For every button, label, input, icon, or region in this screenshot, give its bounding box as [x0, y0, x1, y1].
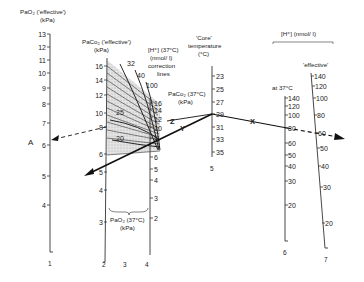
scale-5-core-temperature: 'Core' temperature (°C) 23 25 27 29 31 3…	[188, 34, 224, 172]
scale-7-title: 'effective'	[303, 61, 328, 68]
scale-1-unit: (kPa)	[40, 16, 55, 23]
tick-label: 120	[288, 103, 300, 110]
scale-6-h-ion-37c: at 37°C 140 120 100 80 60 50 40 30 20 6	[272, 84, 300, 256]
arrow-x-icon	[334, 133, 345, 140]
scale-6-title: at 37°C	[272, 84, 293, 91]
tick-label: 7	[42, 120, 46, 127]
tick-label: 11	[39, 57, 46, 64]
tick-label: 16	[154, 100, 162, 107]
tick-label: 20	[325, 220, 333, 227]
scale-5-title-2: temperature	[188, 42, 222, 49]
scale-4-bottom-unit: (kPa)	[120, 224, 135, 231]
label-x: X	[250, 117, 255, 126]
tick-label: 3	[154, 195, 158, 202]
tick-label: 100	[288, 112, 300, 119]
tick-label: 30	[288, 178, 296, 185]
curve-label-32: 32	[127, 60, 135, 67]
scale-3-title: [H⁺] (37°C)	[148, 46, 179, 53]
pao2-37c-brace	[109, 208, 148, 215]
tick-label: 33	[216, 136, 224, 143]
tick-label: 140	[288, 95, 300, 102]
tick-label: 31	[216, 124, 224, 131]
scale-1-number: 1	[48, 260, 52, 267]
tick-label: 120	[315, 83, 327, 90]
arrow-a-icon	[51, 135, 59, 141]
scale-7-h-ion-effective: 'effective' 140 120 100 80 60 50 40 30 2…	[303, 61, 333, 263]
scale-5-title: 'Core'	[196, 34, 212, 41]
tick-label: 14	[95, 77, 103, 84]
scale-3-line4: lines	[157, 70, 170, 77]
tick-label: 4	[154, 177, 158, 184]
tick-label: 2	[154, 215, 158, 222]
tick-label: 50	[320, 145, 328, 152]
scale-1-pao2-effective: PaO₂ ('effective') (kPa) 13 12 11 10 9 8…	[20, 8, 66, 267]
tick-label: 6	[154, 154, 158, 161]
nomogram-diagram: PaO₂ ('effective') (kPa) 13 12 11 10 9 8…	[0, 0, 364, 282]
curve-label-25: 25	[116, 109, 124, 116]
nomogram-svg: PaO₂ ('effective') (kPa) 13 12 11 10 9 8…	[0, 0, 364, 282]
tick-label: 5	[154, 166, 158, 173]
scale-3-line3: correction	[148, 62, 176, 69]
tick-label: 60	[318, 130, 326, 137]
tick-label: 13	[38, 31, 46, 38]
h-ion-group-header: [H⁺] (nmol/ l)	[273, 30, 333, 44]
tick-label: 6	[99, 151, 103, 158]
tick-label: 3	[99, 219, 103, 226]
scale-7-number: 7	[324, 256, 328, 263]
line-x-dashed	[287, 128, 338, 137]
scale-2-unit: (kPa)	[94, 46, 109, 53]
tick-label: 27	[216, 99, 224, 106]
scale-3-unit: (nmol/ l)	[150, 54, 172, 61]
tick-label: 12	[154, 116, 162, 123]
tick-label: 20	[288, 202, 296, 209]
tick-label: 10	[38, 70, 46, 77]
tick-label: 10	[95, 110, 103, 117]
tick-label: 5	[42, 173, 46, 180]
curve-label-20: 20	[116, 135, 124, 142]
tick-label: 4	[42, 202, 46, 209]
scale-4-bottom-title: PaO₂ (37°C)	[110, 216, 144, 223]
scale-4-unit: (kPa)	[178, 98, 193, 105]
scale-5-number: 5	[210, 165, 214, 172]
scale-1-title: PaO₂ ('effective')	[20, 8, 66, 15]
tick-label: 16	[95, 63, 103, 70]
tick-label: 35	[216, 149, 224, 156]
tick-label: 40	[288, 163, 296, 170]
scale-6-number: 6	[283, 249, 287, 256]
tick-label: 100	[316, 95, 328, 102]
tick-label: 40	[321, 163, 329, 170]
tick-label: 8	[42, 101, 46, 108]
curve-label-100: 100	[146, 82, 158, 89]
tick-label: 4	[99, 187, 103, 194]
tick-label: 60	[288, 140, 296, 147]
curve-label-40: 40	[137, 72, 145, 79]
tick-label: 140	[314, 73, 326, 80]
label-y: Y	[180, 124, 185, 133]
line-a-dashed	[55, 127, 106, 139]
tick-label: 50	[288, 152, 296, 159]
tick-label: 23	[216, 73, 224, 80]
arrow-y-icon	[84, 168, 94, 176]
h-ion-group-title: [H⁺] (nmol/ l)	[281, 30, 316, 37]
tick-label: 9	[42, 85, 46, 92]
tick-label: 80	[317, 112, 325, 119]
scale-5-unit: (°C)	[198, 50, 209, 57]
tick-label: 10	[154, 125, 162, 132]
tick-label: 30	[323, 184, 331, 191]
tick-label: 12	[95, 92, 103, 99]
tick-label: 14	[154, 107, 162, 114]
tick-label: 12	[38, 44, 46, 51]
scale-3-number: 3	[123, 261, 127, 268]
scale-2-number: 2	[102, 261, 106, 268]
label-z: Z	[170, 117, 175, 126]
point-a-label: A	[28, 138, 34, 147]
scale-2-title: PaCo₂ ('effective')	[82, 38, 131, 45]
tick-label: 5	[99, 169, 103, 176]
scale-4-title: PaCo₂ (37°C)	[168, 90, 206, 97]
tick-label: 6	[42, 142, 46, 149]
tick-label: 25	[216, 86, 224, 93]
scale-4-number: 4	[145, 261, 149, 268]
